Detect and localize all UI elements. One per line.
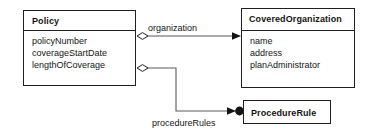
organization-target-open-arrow-icon (232, 32, 241, 40)
attribute-item: coverageStartDate (32, 47, 135, 59)
class-attributes-covered-organization: name address planAdministrator (242, 31, 354, 71)
class-name-policy: Policy (24, 11, 135, 31)
class-attributes-policy: policyNumber coverageStartDate lengthOfC… (24, 31, 135, 71)
class-box-policy[interactable]: Policy policyNumber coverageStartDate le… (23, 10, 136, 86)
relationship-organization[interactable] (137, 32, 241, 40)
relationship-label-organization: organization (148, 24, 197, 33)
attribute-item: name (250, 35, 354, 47)
class-name-procedure-rule: ProcedureRule (244, 101, 330, 125)
relationship-label-procedure-rules: procedureRules (152, 119, 216, 128)
class-name-covered-organization: CoveredOrganization (242, 9, 354, 31)
class-box-covered-organization[interactable]: CoveredOrganization name address planAdm… (241, 8, 355, 88)
class-box-procedure-rule[interactable]: ProcedureRule (243, 100, 331, 124)
attribute-item: planAdministrator (250, 59, 354, 71)
attribute-item: lengthOfCoverage (32, 59, 135, 71)
relationship-procedure-rules[interactable] (137, 65, 244, 116)
uml-class-diagram: Policy policyNumber coverageStartDate le… (0, 0, 375, 136)
attribute-item: address (250, 47, 354, 59)
procedure-rules-target-open-arrow-icon (227, 107, 236, 115)
organization-source-hollow-diamond-icon (137, 33, 148, 40)
attribute-item: policyNumber (32, 35, 135, 47)
procedure-rules-source-hollow-diamond-icon (137, 65, 148, 72)
procedure-rules-edge-line (147, 68, 228, 111)
